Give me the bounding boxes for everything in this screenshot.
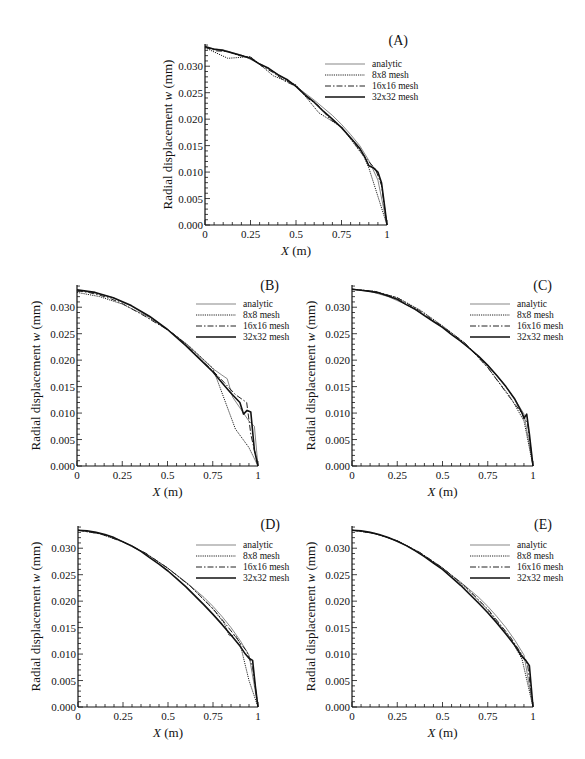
x-tick-label: 0.5 xyxy=(161,710,175,722)
y-tick-label: 0.010 xyxy=(325,407,350,419)
legend-label: 16x16 mesh xyxy=(517,321,563,331)
x-tick-label: 0.25 xyxy=(388,469,408,481)
legend-label: analytic xyxy=(372,59,402,69)
chart-panel-d: 00.250.50.7510.0000.0050.0100.0150.0200.… xyxy=(28,517,289,740)
y-tick-label: 0.010 xyxy=(325,648,350,660)
y-tick-label: 0.015 xyxy=(178,140,203,152)
series-line-32x32-mesh xyxy=(78,530,258,707)
y-tick-label: 0.005 xyxy=(50,434,75,446)
x-tick-label: 0 xyxy=(349,710,355,722)
y-tick-label: 0.000 xyxy=(325,701,350,713)
y-tick-label: 0.000 xyxy=(325,460,350,472)
legend: analytic8x8 mesh16x16 mesh32x32 mesh xyxy=(470,540,563,583)
x-axis-title: X (m) xyxy=(427,484,458,499)
chart-panel-a: 00.250.50.7510.0000.0050.0100.0150.0200.… xyxy=(160,33,418,258)
legend-label: 16x16 mesh xyxy=(243,562,289,572)
x-tick-label: 0.75 xyxy=(478,469,498,481)
y-tick-label: 0.025 xyxy=(50,328,75,340)
legend-label: 32x32 mesh xyxy=(372,92,418,102)
legend-label: 16x16 mesh xyxy=(243,321,289,331)
y-tick-label: 0.030 xyxy=(50,301,75,313)
legend-label: 8x8 mesh xyxy=(517,310,554,320)
x-tick-label: 1 xyxy=(530,710,536,722)
series-line-analytic xyxy=(78,530,258,707)
y-tick-label: 0.005 xyxy=(178,193,203,205)
x-tick-label: 0.75 xyxy=(203,710,223,722)
y-axis-title: Radial displacement w (mm) xyxy=(28,542,43,692)
chart-panel-b: 00.250.50.7510.0000.0050.0100.0150.0200.… xyxy=(28,278,289,499)
series-line-16x16-mesh xyxy=(352,530,533,707)
x-tick-label: 0.25 xyxy=(388,710,408,722)
series-line-16x16-mesh xyxy=(78,530,258,707)
y-tick-label: 0.010 xyxy=(50,407,75,419)
y-tick-label: 0.010 xyxy=(178,166,203,178)
x-tick-label: 0.5 xyxy=(289,228,303,240)
y-tick-label: 0.030 xyxy=(178,60,203,72)
x-tick-label: 0.75 xyxy=(332,228,352,240)
x-tick-label: 0.5 xyxy=(436,469,450,481)
x-axis-title: X (m) xyxy=(427,725,458,740)
legend-label: analytic xyxy=(243,540,273,550)
chart-panel-c: 00.250.50.7510.0000.0050.0100.0150.0200.… xyxy=(303,278,563,499)
series-line-32x32-mesh xyxy=(352,530,533,707)
y-tick-label: 0.020 xyxy=(50,354,75,366)
legend-label: 8x8 mesh xyxy=(372,70,409,80)
legend-label: 8x8 mesh xyxy=(517,551,554,561)
x-tick-label: 0 xyxy=(74,469,80,481)
series-line-8x8-mesh xyxy=(78,530,258,707)
y-tick-label: 0.015 xyxy=(51,622,76,634)
y-tick-label: 0.005 xyxy=(325,675,350,687)
y-tick-label: 0.020 xyxy=(178,113,203,125)
y-tick-label: 0.015 xyxy=(325,381,350,393)
x-tick-label: 0 xyxy=(202,228,208,240)
legend-label: 32x32 mesh xyxy=(243,332,289,342)
legend: analytic8x8 mesh16x16 mesh32x32 mesh xyxy=(196,299,289,342)
y-tick-label: 0.025 xyxy=(51,569,76,581)
x-axis-title: X (m) xyxy=(152,725,183,740)
x-tick-label: 0 xyxy=(75,710,81,722)
legend: analytic8x8 mesh16x16 mesh32x32 mesh xyxy=(196,540,289,583)
y-tick-label: 0.015 xyxy=(50,381,75,393)
x-tick-label: 0.75 xyxy=(203,469,223,481)
panel-label: (D) xyxy=(261,517,281,533)
y-tick-label: 0.025 xyxy=(325,569,350,581)
x-tick-label: 0.75 xyxy=(478,710,498,722)
y-tick-label: 0.030 xyxy=(325,542,350,554)
series-line-32x32-mesh xyxy=(205,47,387,225)
x-tick-label: 0.5 xyxy=(436,710,450,722)
series-line-8x8-mesh xyxy=(77,292,258,466)
legend-label: 32x32 mesh xyxy=(517,332,563,342)
y-tick-label: 0.020 xyxy=(325,354,350,366)
x-tick-label: 1 xyxy=(530,469,536,481)
series-line-8x8-mesh xyxy=(352,289,533,466)
x-axis-title: X (m) xyxy=(152,484,183,499)
series-line-analytic xyxy=(77,290,258,466)
legend-label: 16x16 mesh xyxy=(372,81,418,91)
legend-label: analytic xyxy=(517,299,547,309)
y-tick-label: 0.030 xyxy=(325,301,350,313)
legend: analytic8x8 mesh16x16 mesh32x32 mesh xyxy=(325,59,418,102)
y-axis-title: Radial displacement w (mm) xyxy=(303,542,318,692)
y-tick-label: 0.025 xyxy=(178,87,203,99)
y-tick-label: 0.020 xyxy=(51,595,76,607)
series-line-32x32-mesh xyxy=(77,290,258,466)
x-tick-label: 0.25 xyxy=(241,228,261,240)
series-line-analytic xyxy=(205,48,387,225)
y-tick-label: 0.000 xyxy=(50,460,75,472)
x-tick-label: 1 xyxy=(255,710,261,722)
x-tick-label: 0 xyxy=(349,469,355,481)
legend-label: 8x8 mesh xyxy=(243,310,280,320)
y-axis-title: Radial displacement w (mm) xyxy=(28,301,43,451)
y-tick-label: 0.015 xyxy=(325,622,350,634)
panel-label: (A) xyxy=(389,33,409,49)
x-tick-label: 1 xyxy=(255,469,261,481)
y-tick-label: 0.005 xyxy=(51,675,76,687)
legend-label: analytic xyxy=(517,540,547,550)
y-tick-label: 0.020 xyxy=(325,595,350,607)
y-tick-label: 0.005 xyxy=(325,434,350,446)
y-axis-title: Radial displacement w (mm) xyxy=(160,60,175,210)
chart-panel-e: 00.250.50.7510.0000.0050.0100.0150.0200.… xyxy=(303,517,563,740)
x-axis-title: X (m) xyxy=(280,243,311,258)
panel-label: (E) xyxy=(534,517,552,533)
y-tick-label: 0.000 xyxy=(178,219,203,231)
